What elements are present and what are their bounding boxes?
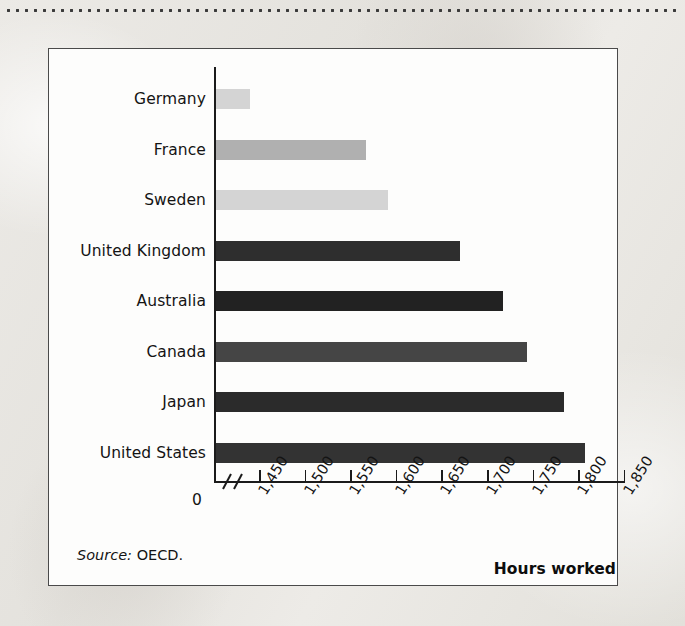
- source-label: Source:: [77, 547, 132, 563]
- x-tick-label-zero: 0: [192, 491, 202, 509]
- bar: [216, 241, 460, 261]
- category-label: United States: [100, 444, 206, 462]
- category-label: France: [154, 141, 206, 159]
- bar: [216, 291, 503, 311]
- category-label: Australia: [137, 292, 206, 310]
- bar: [216, 140, 366, 160]
- category-label: Canada: [146, 343, 206, 361]
- figure-panel: 0 GermanyFranceSwedenUnited KingdomAustr…: [48, 48, 618, 586]
- bar: [216, 89, 250, 109]
- source-value: OECD.: [137, 547, 183, 563]
- bar: [216, 443, 585, 463]
- category-label: United Kingdom: [80, 242, 206, 260]
- bar: [216, 190, 388, 210]
- bar: [216, 392, 564, 412]
- category-label: Sweden: [144, 191, 206, 209]
- y-axis-line: [214, 67, 216, 481]
- dotted-rule-decoration: [4, 8, 681, 13]
- x-axis-title: Hours worked: [494, 560, 616, 578]
- source-note: Source: OECD.: [77, 547, 183, 563]
- category-label: Japan: [162, 393, 206, 411]
- category-label: Germany: [134, 90, 206, 108]
- bar-chart-plot-area: 0 GermanyFranceSwedenUnited KingdomAustr…: [49, 49, 619, 587]
- bar: [216, 342, 527, 362]
